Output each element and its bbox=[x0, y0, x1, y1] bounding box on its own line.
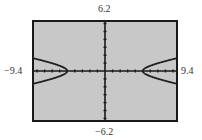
ymin-label: −6.2 bbox=[95, 127, 113, 137]
xmin-label: −9.4 bbox=[4, 66, 22, 76]
graph-screen bbox=[0, 0, 202, 140]
xmax-label: 9.4 bbox=[181, 66, 194, 76]
ymax-label: 6.2 bbox=[98, 4, 111, 14]
